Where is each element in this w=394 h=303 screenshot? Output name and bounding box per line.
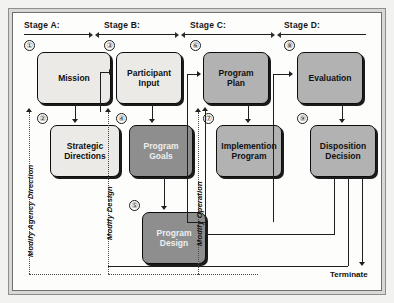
edge-plan-to-implement (248, 104, 249, 120)
terminate-path-across (108, 266, 348, 267)
feedback-operation-up (205, 111, 206, 234)
edge-design-to-plan-arrow (197, 71, 201, 77)
terminate-arrow-head (359, 262, 365, 266)
modify-operation-foot (198, 274, 258, 275)
stage-rule-a (24, 34, 89, 35)
node-participant-input-label: ParticipantInput (127, 68, 171, 88)
feedback-operation-down (334, 177, 335, 234)
diagram-page: Stage A: Stage B: Stage C: Stage D: ① Mi… (0, 0, 394, 303)
modify-operation-channel-arrow (195, 108, 201, 112)
modify-agency-direction-arrow (26, 108, 32, 112)
label-modify-operation: Modify Operation (195, 181, 204, 246)
terminate-path-down (348, 177, 349, 266)
node-program-plan-label: ProgramPlan (219, 68, 254, 88)
stage-label-b: Stage B: (104, 20, 140, 30)
node-program-design-label: ProgramDesign (157, 228, 192, 248)
stage-rule-d (281, 34, 366, 35)
edge-plan-to-evaluation-horizontal (273, 74, 289, 75)
node-program-plan[interactable]: ProgramPlan (203, 52, 269, 104)
node-evaluation[interactable]: Evaluation (297, 52, 363, 104)
label-modify-agency-direction: Modify Agency Direction (26, 165, 35, 257)
node-number-plan: ⑥ (190, 40, 201, 51)
edge-goals-to-design (164, 177, 165, 207)
stage-rule-b (99, 34, 175, 35)
node-number-participant: ③ (104, 40, 115, 51)
node-number-mission: ① (24, 40, 35, 51)
node-number-strategic: ② (37, 113, 48, 124)
edge-evaluation-to-disposition-arrow (339, 119, 345, 123)
edge-evaluation-to-disposition (342, 104, 343, 120)
edge-mission-to-strategic (75, 104, 76, 120)
edge-plan-to-implement-arrow (245, 119, 251, 123)
stage-divider-arrow-b-right (175, 32, 179, 38)
terminate-label: Terminate (330, 270, 368, 279)
node-program-goals-label: ProgramGoals (144, 141, 179, 161)
stage-label-c: Stage C: (190, 20, 226, 30)
edge-participant-to-goals (152, 104, 153, 120)
label-modify-design: Modify Design (105, 186, 114, 240)
node-implemention-program-label: ImplementionProgram (221, 141, 276, 161)
modify-agency-direction-foot (29, 274, 101, 275)
edge-plan-to-evaluation-arrow (289, 71, 293, 77)
edge-design-to-plan-vertical (187, 74, 188, 222)
edge-strategic-to-participant-riser (100, 72, 101, 112)
node-number-evaluation: ⑧ (284, 40, 295, 51)
stage-label-d: Stage D: (284, 20, 320, 30)
node-participant-input[interactable]: ParticipantInput (116, 52, 182, 104)
node-disposition-decision[interactable]: DispositionDecision (310, 125, 376, 177)
node-disposition-decision-label: DispositionDecision (320, 141, 366, 161)
modify-design-foot (108, 274, 198, 275)
stage-divider-arrow-a-right (89, 32, 93, 38)
node-evaluation-label: Evaluation (309, 73, 352, 83)
node-number-design: ⑤ (129, 200, 140, 211)
edge-strategic-to-participant-arrow (109, 69, 113, 75)
stage-divider-arrow-c-right (271, 32, 275, 38)
node-mission-label: Mission (58, 73, 90, 83)
edge-participant-to-goals-arrow (149, 119, 155, 123)
terminate-arrow-stem (362, 177, 363, 263)
node-strategic-directions-label: StrategicDirections (64, 141, 106, 161)
node-number-disposition: ⑨ (297, 113, 308, 124)
stage-label-a: Stage A: (24, 20, 60, 30)
node-strategic-directions[interactable]: StrategicDirections (50, 125, 120, 177)
edge-plan-to-evaluation-riser (273, 74, 274, 222)
feedback-operation-across (205, 234, 335, 235)
modify-design-arrow (105, 108, 111, 112)
feedback-operation-arrow (202, 107, 208, 111)
edge-mission-to-strategic-arrow (72, 119, 78, 123)
stage-rule-c (185, 34, 271, 35)
edge-goals-to-design-arrow (161, 206, 167, 210)
node-number-goals: ④ (116, 113, 127, 124)
diagram-canvas: Stage A: Stage B: Stage C: Stage D: ① Mi… (12, 12, 382, 291)
node-program-goals[interactable]: ProgramGoals (129, 125, 193, 177)
